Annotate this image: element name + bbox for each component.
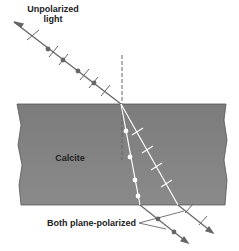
label-calcite: Calcite — [50, 153, 90, 163]
exit-rays — [140, 204, 213, 243]
label-line1: Unpolarized — [26, 4, 80, 14]
calcite-birefringence-diagram — [0, 0, 239, 251]
label-unpolarized-light: Unpolarized light — [26, 4, 80, 24]
label-line2: light — [26, 14, 80, 24]
label-both-plane-polarized: Both plane-polarized — [47, 218, 139, 228]
label-pointers — [139, 211, 184, 229]
incident-ray — [14, 22, 121, 104]
